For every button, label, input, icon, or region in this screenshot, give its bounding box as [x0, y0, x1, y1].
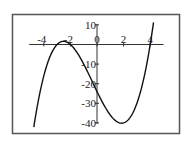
tick-labels: -4-202410-10-20-30-40 [37, 19, 153, 129]
x-tick-label: 0 [94, 33, 100, 45]
y-tick-label: 10 [85, 19, 97, 31]
y-tick-label: -30 [81, 97, 96, 109]
x-tick-label: 2 [121, 33, 127, 45]
chart: -4-202410-10-20-30-40 [0, 0, 187, 142]
y-tick-label: -40 [81, 117, 96, 129]
y-tick-label: -20 [81, 78, 96, 90]
x-tick-label: -4 [37, 33, 47, 45]
